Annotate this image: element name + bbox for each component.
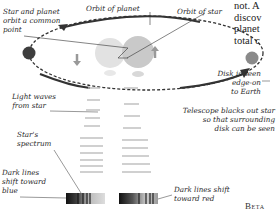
text-line: planet (234, 23, 261, 35)
label-line: from star (12, 101, 46, 110)
body-text-fragment: not. A discov planet total c (234, 0, 261, 46)
text-line: total c (234, 35, 261, 47)
label-blue-shift: Dark lines shift toward blue (2, 168, 46, 195)
label-light-waves: Light waves from star (12, 92, 46, 110)
label-line: Star and planet (3, 7, 60, 16)
label-red-shift: Dark lines shift toward red (174, 185, 230, 203)
label-common-point: Star and planet orbit a common point (3, 7, 60, 34)
text-line: discov (234, 12, 261, 24)
label-line: Dark lines shift (174, 185, 230, 194)
label-line: so that surrounding (175, 115, 275, 124)
spectrum-blue (66, 193, 105, 204)
label-line: Star's (17, 130, 51, 139)
label-disk-edge: Disk is seen edge-on to Earth (205, 69, 261, 96)
label-line: Dark lines (2, 168, 46, 177)
label-orbit-star: Orbit of star (177, 7, 222, 16)
label-line: point (3, 25, 60, 34)
label-orbit-planet: Orbit of planet (86, 4, 140, 13)
label-line: Light waves (12, 92, 46, 101)
label-line: spectrum (17, 139, 51, 148)
label-line: toward red (174, 194, 230, 203)
label-line: Disk is seen (205, 69, 261, 78)
label-line: shift toward (2, 177, 46, 186)
text-line: not. A (234, 0, 261, 12)
star-position-blue (95, 38, 125, 76)
label-line: blue (2, 186, 46, 195)
label-line: orbit a common (3, 16, 60, 25)
label-line: edge-on (205, 78, 261, 87)
label-line: Telescope blacks out star (175, 106, 275, 115)
star-position-red (122, 36, 154, 77)
label-telescope: Telescope blacks out star so that surrou… (175, 106, 275, 133)
label-line: to Earth (205, 87, 261, 96)
label-line: disk can be seen (175, 124, 275, 133)
label-spectrum: Star's spectrum (17, 130, 51, 148)
spectrum-red (119, 193, 158, 204)
section-label-beta: Beta (245, 201, 265, 211)
